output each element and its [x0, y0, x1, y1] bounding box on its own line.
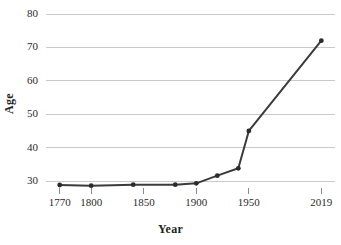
data-point-marker: [173, 182, 178, 187]
x-tick-label: 1850: [124, 196, 164, 208]
y-tick-label: 40: [8, 141, 38, 153]
x-tick-label: 1950: [229, 196, 269, 208]
data-point-markers-group: [57, 38, 323, 188]
y-tick-label: 80: [8, 7, 38, 19]
chart-plot-area: [0, 0, 341, 245]
data-point-marker: [319, 38, 324, 43]
data-point-marker: [57, 183, 62, 188]
x-tick-label: 2019: [301, 196, 341, 208]
data-point-marker: [246, 129, 251, 134]
data-point-marker: [131, 182, 136, 187]
data-point-marker: [215, 173, 220, 178]
x-tick-label: 1900: [176, 196, 216, 208]
x-tick-label: 1800: [71, 196, 111, 208]
y-tick-label: 60: [8, 74, 38, 86]
life-expectancy-line-chart: 807060504030 177018001850190019502019 Ag…: [0, 0, 341, 245]
data-point-marker: [236, 166, 241, 171]
data-point-marker: [89, 183, 94, 188]
x-tick-marks-group: [60, 188, 322, 194]
x-axis-title: Year: [0, 222, 341, 237]
y-axis-title: Age: [2, 93, 17, 114]
gridlines-group: [46, 14, 335, 181]
y-tick-label: 70: [8, 40, 38, 52]
data-point-marker: [194, 181, 199, 186]
data-line: [60, 41, 322, 186]
y-tick-label: 30: [8, 174, 38, 186]
